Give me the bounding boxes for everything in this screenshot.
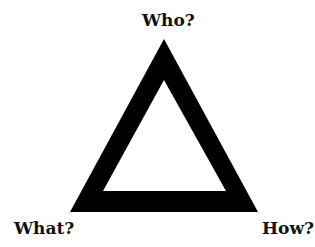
label-who: Who? xyxy=(142,10,195,30)
label-how: How? xyxy=(262,218,314,238)
label-what: What? xyxy=(14,218,74,238)
triangle-shape xyxy=(70,39,258,212)
triangle-diagram xyxy=(0,0,315,247)
